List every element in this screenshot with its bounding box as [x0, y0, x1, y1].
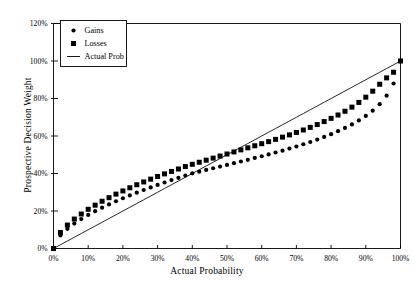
losses-point: [100, 199, 105, 204]
x-tick-label: 50%: [220, 254, 235, 263]
gains-point: [114, 199, 118, 203]
gains-point: [197, 170, 201, 174]
losses-point: [169, 169, 174, 174]
gains-point: [176, 176, 180, 180]
losses-point: [155, 174, 160, 179]
losses-point: [176, 167, 181, 172]
losses-point: [113, 192, 118, 197]
gains-point: [308, 140, 312, 144]
legend-label: Gains: [85, 26, 104, 35]
losses-point: [308, 125, 313, 130]
gains-point: [183, 173, 187, 177]
x-tick-label: 40%: [185, 254, 200, 263]
losses-point: [127, 185, 132, 190]
losses-point: [294, 130, 299, 135]
x-tick-label: 0%: [48, 254, 59, 263]
losses-point: [162, 171, 167, 176]
gains-point: [398, 59, 402, 63]
losses-point: [245, 145, 250, 150]
losses-point: [148, 177, 153, 182]
gains-point: [364, 114, 368, 118]
gains-point: [211, 166, 215, 170]
gains-point: [343, 126, 347, 130]
losses-point: [238, 147, 243, 152]
gains-point: [239, 159, 243, 163]
losses-point: [301, 128, 306, 133]
gains-point: [273, 150, 277, 154]
losses-point: [79, 212, 84, 217]
legend-label: Actual Prob: [85, 52, 124, 61]
gains-point: [287, 146, 291, 150]
losses-point: [259, 141, 264, 146]
gains-point: [190, 171, 194, 175]
gains-point: [86, 213, 90, 217]
gains-point: [135, 191, 139, 195]
gains-point: [315, 137, 319, 141]
losses-point: [72, 217, 77, 222]
legend-marker-square-icon: [71, 41, 76, 46]
losses-point: [134, 182, 139, 187]
x-tick-label: 30%: [151, 254, 166, 263]
gains-point: [232, 161, 236, 165]
gains-point: [385, 94, 389, 98]
gains-point: [329, 132, 333, 136]
gains-point: [156, 183, 160, 187]
gains-point: [162, 180, 166, 184]
losses-point: [391, 70, 396, 75]
x-tick-label: 70%: [289, 254, 304, 263]
gains-point: [322, 135, 326, 139]
gains-point: [121, 196, 125, 200]
x-tick-label: 10%: [81, 254, 96, 263]
legend-marker-circle-icon: [71, 28, 75, 32]
gains-point: [51, 246, 55, 250]
gains-point: [107, 202, 111, 206]
losses-point: [141, 179, 146, 184]
gains-point: [350, 122, 354, 126]
losses-point: [377, 82, 382, 87]
losses-point: [218, 154, 223, 159]
losses-point: [336, 113, 341, 118]
losses-point: [329, 116, 334, 121]
chart-figure: 0%10%20%30%40%50%60%70%80%90%100% 0%20%4…: [0, 0, 414, 287]
x-axis-title: Actual Probability: [0, 266, 414, 276]
gains-point: [294, 144, 298, 148]
losses-point: [190, 162, 195, 167]
gains-point: [253, 156, 257, 160]
y-tick-label: 40%: [34, 169, 49, 178]
gains-point: [246, 158, 250, 162]
x-tick-label: 80%: [324, 254, 339, 263]
losses-point: [93, 203, 98, 208]
losses-point: [370, 89, 375, 94]
losses-point: [86, 207, 91, 212]
gains-point: [65, 227, 69, 231]
x-tick-label: 60%: [255, 254, 270, 263]
gains-point: [391, 81, 395, 85]
losses-point: [287, 132, 292, 137]
losses-point: [363, 95, 368, 100]
losses-point: [107, 195, 112, 200]
losses-point: [211, 156, 216, 161]
gains-point: [93, 209, 97, 213]
losses-point: [231, 149, 236, 154]
losses-point: [280, 135, 285, 140]
y-tick-label: 60%: [34, 132, 49, 141]
gains-point: [169, 178, 173, 182]
gains-point: [301, 142, 305, 146]
losses-point: [342, 109, 347, 114]
y-tick-label: 80%: [34, 94, 49, 103]
gains-point: [260, 154, 264, 158]
y-tick-label: 20%: [34, 207, 49, 216]
gains-point: [100, 206, 104, 210]
gains-point: [149, 185, 153, 189]
losses-point: [273, 137, 278, 142]
x-tick-label: 90%: [359, 254, 374, 263]
gains-point: [378, 102, 382, 106]
x-tick-label: 100%: [392, 254, 410, 263]
gains-point: [58, 233, 62, 237]
gains-point: [79, 217, 83, 221]
gains-point: [336, 129, 340, 133]
y-tick-label: 0%: [37, 244, 48, 253]
losses-point: [204, 158, 209, 163]
losses-point: [197, 160, 202, 165]
losses-point: [266, 139, 271, 144]
